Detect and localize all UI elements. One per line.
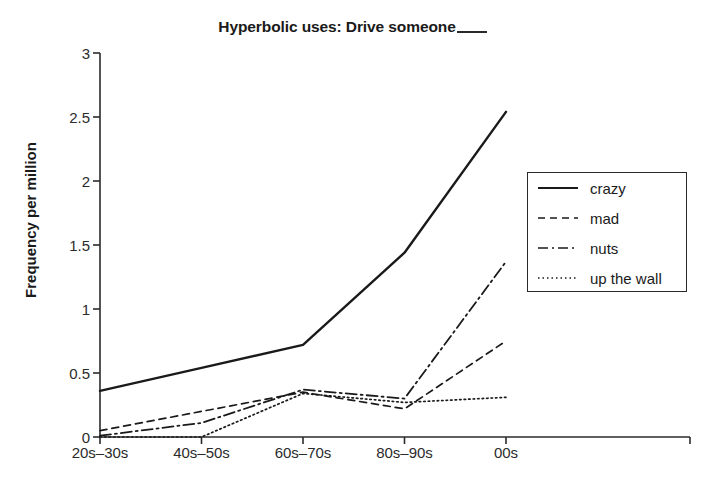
legend-line-dashed-icon xyxy=(536,211,580,225)
legend-line-solid-icon xyxy=(536,181,580,195)
legend-entry-mad: mad xyxy=(528,203,686,233)
series-line-mad xyxy=(100,341,506,431)
legend-entry-nuts: nuts xyxy=(528,233,686,263)
legend-line-dotted-icon xyxy=(536,271,580,285)
chart-figure: Hyperbolic uses: Drive someone Frequency… xyxy=(0,0,705,489)
legend-label: nuts xyxy=(590,240,618,257)
data-series-group xyxy=(100,112,506,437)
legend-entry-crazy: crazy xyxy=(528,173,686,203)
series-line-crazy xyxy=(100,112,506,391)
series-line-nuts xyxy=(100,262,506,436)
series-line-up-the-wall xyxy=(100,393,506,437)
legend-label: mad xyxy=(590,210,619,227)
y-axis-ticks xyxy=(93,53,100,437)
legend-label: crazy xyxy=(590,180,626,197)
x-axis-ticks xyxy=(100,437,690,444)
legend-label: up the wall xyxy=(590,270,662,287)
chart-legend: crazy mad nuts up the wall xyxy=(527,172,687,292)
legend-entry-up-the-wall: up the wall xyxy=(528,263,686,293)
legend-line-dashdot-icon xyxy=(536,241,580,255)
